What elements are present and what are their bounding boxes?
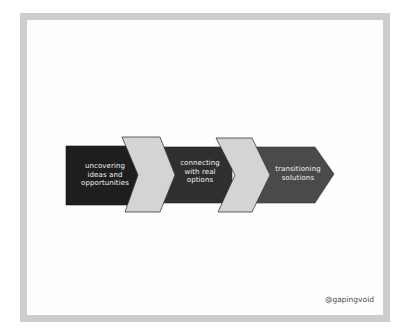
step-1-label-line-3: opportunities	[74, 179, 136, 188]
step-2-label-line-1: connecting	[172, 159, 228, 168]
step-2-label-line-3: options	[172, 176, 228, 185]
step-1-label: uncovering ideas and opportunities	[74, 162, 136, 188]
step-3-label-line-2: solutions	[268, 174, 328, 183]
step-1-label-line-2: ideas and	[74, 171, 136, 180]
step-1-label-line-1: uncovering	[74, 162, 136, 171]
step-3-label-line-1: transitioning	[268, 165, 328, 174]
author-signature: @gapingvoid	[325, 295, 374, 304]
step-2-label-line-2: with real	[172, 168, 228, 177]
step-3-label: transitioning solutions	[268, 165, 328, 182]
step-2-label: connecting with real options	[172, 159, 228, 185]
